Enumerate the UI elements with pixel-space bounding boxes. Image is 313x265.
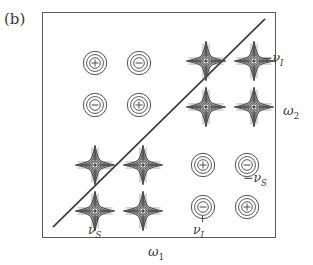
label-nu-S: νS — [88, 222, 101, 240]
absorptive-peak — [190, 152, 216, 178]
absorptive-peak — [126, 92, 152, 118]
label-neg-nu-I: −νI — [262, 50, 283, 68]
tick-nu-S — [97, 216, 98, 222]
absorptive-peak — [126, 50, 152, 76]
absorptive-peak — [82, 50, 108, 76]
dispersive-peak — [232, 85, 276, 129]
dispersive-peak — [121, 143, 165, 187]
plot-frame — [42, 12, 276, 238]
dispersive-peak — [121, 189, 165, 233]
plot-area — [43, 13, 275, 237]
dispersive-peak — [73, 143, 117, 187]
dispersive-peak — [184, 39, 228, 83]
dispersive-peak — [184, 85, 228, 129]
panel-label: (b) — [4, 10, 25, 28]
x-axis-label: ω1 — [148, 244, 164, 262]
tick-nu-I — [202, 216, 203, 222]
absorptive-peak — [234, 194, 260, 220]
label-neg-nu-S: −νS — [243, 170, 267, 188]
absorptive-peak — [82, 92, 108, 118]
figure-panel-b: (b) — [0, 0, 313, 265]
y-axis-label: ω2 — [283, 103, 299, 121]
label-nu-I: νI — [193, 222, 204, 240]
